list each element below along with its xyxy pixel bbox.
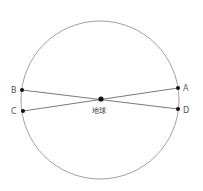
point-d: [176, 107, 180, 111]
point-c: [21, 109, 25, 113]
label-d: D: [183, 106, 189, 115]
point-a: [176, 86, 180, 90]
label-b: B: [11, 86, 17, 95]
point-b: [20, 88, 24, 92]
center-earth-point: [98, 96, 103, 101]
label-earth: 地球: [92, 106, 106, 115]
orbit-diagram: B C A D 地球: [0, 0, 203, 191]
label-a: A: [183, 84, 189, 93]
label-c: C: [11, 107, 17, 116]
